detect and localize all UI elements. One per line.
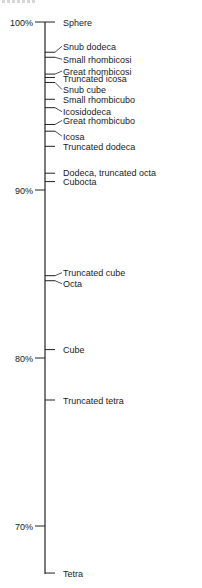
data-point: Octa [45, 279, 82, 289]
data-point: Small rhombicosi [45, 55, 132, 65]
point-label: Octa [63, 279, 82, 289]
y-tick-label: 80% [15, 354, 33, 364]
point-label: Icosa [63, 132, 85, 142]
point-label: Cube [63, 345, 85, 355]
point-label: Snub cube [63, 85, 106, 95]
leader-line [55, 281, 62, 284]
y-tick-label: 100% [10, 18, 33, 28]
point-label: Snub dodeca [63, 42, 116, 52]
point-label: Truncated icosa [63, 74, 127, 84]
data-point: Great rhombicubo [45, 116, 135, 126]
data-point: Truncated dodeca [45, 142, 135, 152]
point-label: Small rhombicosi [63, 55, 132, 65]
data-point: Icosa [45, 131, 85, 142]
point-label: Sphere [63, 18, 92, 28]
leader-line [55, 108, 62, 112]
leader-line [55, 120, 62, 124]
point-label: Tetra [63, 569, 83, 579]
data-points: SphereSnub dodecaSmall rhombicosiGreat r… [45, 18, 156, 579]
data-point: Truncated cube [45, 268, 125, 278]
data-point: Cubocta [45, 177, 97, 187]
leader-line [55, 273, 62, 276]
data-point: Snub dodeca [45, 42, 116, 53]
data-point: Truncated tetra [45, 396, 124, 406]
data-point: Small rhombicubo [45, 95, 135, 105]
data-point: Cube [45, 345, 85, 355]
point-label: Truncated dodeca [63, 142, 135, 152]
leader-line [55, 46, 62, 52]
data-point: Tetra [45, 569, 83, 579]
leader-line [55, 131, 62, 136]
point-label: Small rhombicubo [63, 95, 135, 105]
point-label: Truncated cube [63, 268, 125, 278]
data-point: Sphere [45, 18, 92, 28]
point-label: Truncated tetra [63, 396, 124, 406]
data-point: Snub cube [45, 82, 106, 95]
data-point: Truncated icosa [45, 74, 127, 84]
leader-line [55, 82, 62, 89]
y-tick-label: 90% [15, 186, 33, 196]
point-label: Great rhombicubo [63, 116, 135, 126]
y-tick-label: 70% [15, 522, 33, 532]
leader-line [55, 57, 62, 59]
polyhedra-sphericity-chart: 100%90%80%70% SphereSnub dodecaSmall rho… [0, 0, 202, 588]
data-point: Dodeca, truncated octa [45, 168, 156, 178]
y-axis-ticks: 100%90%80%70% [10, 18, 45, 532]
point-label: Cubocta [63, 177, 97, 187]
leader-line [55, 71, 62, 74]
